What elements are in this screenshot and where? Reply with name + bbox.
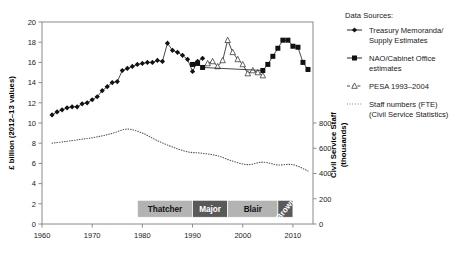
y-left-tick-label: 16 <box>28 58 36 67</box>
data-point-square <box>300 60 305 65</box>
data-point-square <box>195 61 200 66</box>
pm-bar-label-blair: Blair <box>244 205 263 214</box>
data-point-square <box>275 46 280 51</box>
y-left-tick-label: 12 <box>28 99 36 108</box>
y-axis-right-title-line2: (thousands) <box>339 122 348 167</box>
legend-label-3-line1: Staff numbers (FTE) <box>369 100 438 109</box>
public-spending-chart: 02468101214161820 0200400600800 19601970… <box>0 0 467 253</box>
x-tick-label: 1960 <box>34 231 51 240</box>
pm-bar-label-thatcher: Thatcher <box>148 205 183 214</box>
data-point-square <box>280 38 285 43</box>
x-tick-label: 1980 <box>134 231 151 240</box>
y-left-tick-label: 0 <box>32 220 36 229</box>
chart-container: 02468101214161820 0200400600800 19601970… <box>0 0 467 253</box>
legend-label-2-line1: PESA 1993–2004 <box>369 82 429 91</box>
y-right-tick-label: 200 <box>319 195 332 204</box>
legend-label-1-line2: estimates <box>369 64 402 73</box>
y-axis-right-title-line1: Civil Service Staff <box>329 112 338 178</box>
pm-bar-label-major: Major <box>199 205 222 214</box>
data-point-square <box>270 54 275 59</box>
y-left-tick-label: 2 <box>32 200 36 209</box>
legend-label-1-line1: NAO/Cabinet Office <box>369 54 436 63</box>
data-point-square <box>290 44 295 49</box>
y-left-tick-label: 8 <box>32 139 36 148</box>
data-point-square <box>305 67 310 72</box>
data-point-square <box>285 38 290 43</box>
x-tick-label: 1990 <box>184 231 201 240</box>
data-point-square <box>190 62 195 67</box>
legend-label-3-line2: (Civil Service Statistics) <box>369 110 449 119</box>
x-tick-label: 2010 <box>285 231 302 240</box>
data-point-square <box>295 45 300 50</box>
y-axis-left-title: £ billion (2012–13 values) <box>7 76 16 170</box>
x-tick-label: 1970 <box>84 231 101 240</box>
y-right-tick-label: 0 <box>319 220 323 229</box>
legend-label-0-line2: Supply Estimates <box>369 36 428 45</box>
y-left-tick-label: 4 <box>32 179 36 188</box>
legend-heading: Data Sources: <box>345 11 393 20</box>
y-left-tick-label: 14 <box>28 78 36 87</box>
y-left-tick-label: 10 <box>28 119 36 128</box>
y-left-tick-label: 6 <box>32 159 36 168</box>
y-left-tick-label: 18 <box>28 38 36 47</box>
data-point-square <box>352 56 357 61</box>
data-point-square <box>260 68 265 73</box>
y-left-tick-label: 20 <box>28 18 36 27</box>
data-point-square <box>265 62 270 67</box>
legend-label-0-line1: Treasury Memoranda/ <box>369 26 444 35</box>
x-tick-label: 2000 <box>234 231 251 240</box>
data-point-square <box>200 65 205 70</box>
